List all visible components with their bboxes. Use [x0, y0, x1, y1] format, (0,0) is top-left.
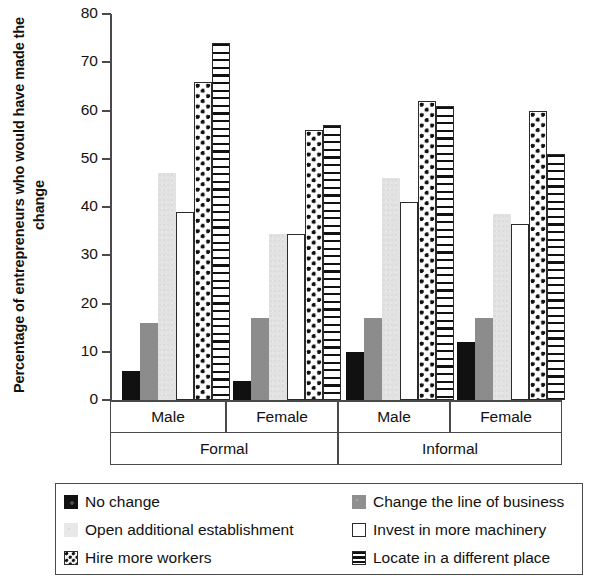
- legend-item-label: Open additional establishment: [85, 521, 294, 539]
- legend-item-label: No change: [85, 493, 160, 511]
- bar: [493, 214, 511, 400]
- bar: [547, 154, 565, 400]
- bar-group: [233, 14, 341, 400]
- x-axis-group-label: Formal: [110, 435, 338, 463]
- x-axis-group-label: Informal: [338, 435, 562, 463]
- y-axis-tick-label: 60: [56, 101, 98, 119]
- bar: [194, 82, 212, 400]
- y-axis-tick-label: 10: [56, 342, 98, 360]
- bar-group: [122, 14, 230, 400]
- y-axis-tick-label: 50: [56, 149, 98, 167]
- legend-column-left: No changeOpen additional establishmentHi…: [64, 488, 342, 572]
- bar: [364, 318, 382, 400]
- y-axis-title: Percentage of entrepreneurs who would ha…: [0, 0, 58, 410]
- legend-item[interactable]: Invest in more machinery: [352, 516, 578, 544]
- bar: [158, 173, 176, 400]
- bar: [140, 323, 158, 400]
- legend-item[interactable]: Open additional establishment: [64, 516, 342, 544]
- y-axis-tick-label: 70: [56, 52, 98, 70]
- bar: [475, 318, 493, 400]
- legend-item[interactable]: No change: [64, 488, 342, 516]
- bar-group: [346, 14, 454, 400]
- legend: No changeOpen additional establishmentHi…: [55, 483, 583, 575]
- bar: [287, 234, 305, 400]
- legend-item-label: Change the line of business: [373, 493, 564, 511]
- x-axis-category-label: Female: [450, 404, 562, 430]
- legend-item-label: Hire more workers: [85, 549, 212, 567]
- plot-area: [110, 14, 562, 400]
- bar: [251, 318, 269, 400]
- x-axis-category-label: Male: [338, 404, 450, 430]
- bar: [212, 43, 230, 400]
- bar: [269, 234, 287, 400]
- bar: [323, 125, 341, 400]
- bar: [382, 178, 400, 400]
- bar-group: [457, 14, 565, 400]
- bar: [457, 342, 475, 400]
- y-axis-tick-label: 0: [56, 390, 98, 408]
- bar: [176, 212, 194, 400]
- legend-item-label: Locate in a different place: [373, 549, 550, 567]
- y-axis-tick-label: 80: [56, 4, 98, 22]
- legend-column-right: Change the line of businessInvest in mor…: [352, 488, 578, 572]
- bar: [529, 111, 547, 401]
- x-axis-category-label: Female: [226, 404, 338, 430]
- checker-swatch-icon: [64, 551, 78, 565]
- legend-item-label: Invest in more machinery: [373, 521, 546, 539]
- y-axis-tick-label: 40: [56, 197, 98, 215]
- bar: [122, 371, 140, 400]
- bar: [511, 224, 529, 400]
- white-outline-swatch-icon: [352, 523, 366, 537]
- solid-gray-swatch-icon: [352, 495, 366, 509]
- bar: [436, 106, 454, 400]
- x-axis-category-label: Male: [110, 404, 226, 430]
- y-axis-tick-label: 30: [56, 245, 98, 263]
- light-gray-swatch-icon: [64, 523, 78, 537]
- y-axis-title-container: Percentage of entrepreneurs who would ha…: [0, 0, 58, 410]
- bar: [346, 352, 364, 400]
- legend-item[interactable]: Hire more workers: [64, 544, 342, 572]
- horizontal-stripe-swatch-icon: [352, 551, 366, 565]
- bar: [418, 101, 436, 400]
- bar: [400, 202, 418, 400]
- solid-black-swatch-icon: [64, 495, 78, 509]
- y-axis-tick-label: 20: [56, 294, 98, 312]
- bar: [233, 381, 251, 400]
- legend-item[interactable]: Change the line of business: [352, 488, 578, 516]
- bar: [305, 130, 323, 400]
- bar-chart-figure: Percentage of entrepreneurs who would ha…: [0, 0, 591, 579]
- legend-item[interactable]: Locate in a different place: [352, 544, 578, 572]
